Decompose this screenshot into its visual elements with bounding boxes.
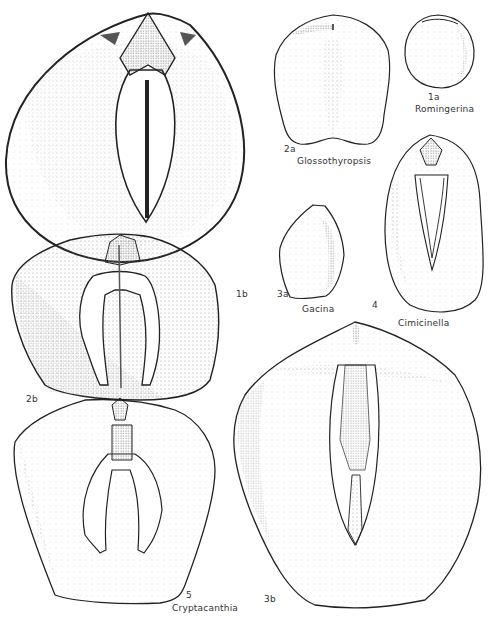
figure-number-1b: 1b: [236, 289, 248, 299]
figure-2b-glossothyropsis-interior: [12, 234, 219, 400]
figure-number-5: 5: [186, 590, 192, 600]
figure-3b-gacina-interior: [234, 322, 481, 608]
figure-5-cryptacanthia-interior: [14, 398, 215, 604]
figure-2a-glossothyropsis-exterior: [274, 15, 389, 144]
figure-number-3b: 3b: [264, 594, 276, 604]
figure-3a-gacina-exterior: [280, 205, 344, 299]
figure-number-2b: 2b: [26, 394, 38, 404]
genus-label-cimicinella: Cimicinella: [398, 318, 449, 328]
figure-1b-romingerina-interior: [6, 13, 244, 262]
genus-label-glossothyropsis: Glossothyropsis: [297, 156, 371, 166]
figure-number-3a: 3a: [277, 289, 289, 299]
genus-label-romingerina: Romingerina: [415, 104, 474, 114]
genus-label-gacina: Gacina: [302, 304, 334, 314]
illustration-plate: [0, 0, 494, 627]
figure-number-1a: 1a: [428, 92, 440, 102]
figure-number-4: 4: [372, 300, 378, 310]
figure-4-cimicinella-interior: [385, 135, 483, 312]
figure-number-2a: 2a: [284, 144, 296, 154]
genus-label-cryptacanthia: Cryptacanthia: [172, 603, 238, 613]
figure-1a-romingerina-exterior: [405, 15, 474, 88]
